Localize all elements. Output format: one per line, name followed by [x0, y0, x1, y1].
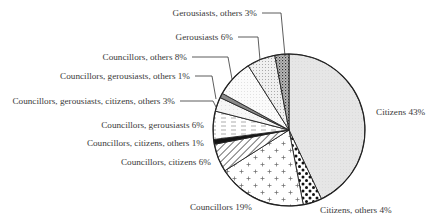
slice-label: Councillors, citizens, others 1% — [87, 138, 204, 148]
slice-label: Councillors 19% — [190, 202, 252, 212]
leader-line — [238, 37, 260, 60]
slice-label: Citizens 43% — [376, 107, 426, 117]
pie-slices — [213, 54, 365, 206]
pie-chart: Citizens 43%Citizens, others 4%Councillo… — [0, 0, 441, 223]
leader-line — [262, 13, 285, 56]
slice-label: Citizens, others 4% — [320, 205, 392, 215]
slice-label: Councillors, citizens 6% — [121, 157, 211, 167]
leader-line — [180, 101, 216, 107]
slice-label: Councillors, gerousiasts, others 1% — [60, 71, 190, 81]
slice-label: Councillors, gerousiasts 6% — [101, 120, 204, 130]
slice-label: Gerousiasts, others 3% — [173, 8, 258, 18]
slice-label: Gerousiasts 6% — [176, 32, 234, 42]
slice-label: Councillors, others 8% — [103, 52, 188, 62]
slice-label: Councillors, gerousiasts, citizens, othe… — [12, 96, 175, 106]
leader-line — [195, 76, 216, 99]
